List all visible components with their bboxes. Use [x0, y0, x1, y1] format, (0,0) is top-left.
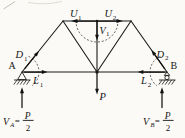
l1-arrowhead-icon: [42, 70, 48, 74]
l2-arrowhead-icon: [138, 70, 144, 74]
d2-subscript: 2: [165, 54, 169, 62]
ground-hatching: [14, 80, 30, 85]
vb-numerator: P: [164, 111, 171, 121]
inner-left-diagonal-member: [63, 21, 97, 72]
p-arrowhead-icon: [95, 89, 99, 95]
vb-arrowhead-icon: [160, 87, 164, 93]
truss-diagram-canvas: U 1 U 2 V 1 D 1 D 2 L 1 L 2 A B P V A = …: [0, 0, 185, 138]
joint-a-label: A: [9, 60, 17, 71]
va-subscript: A: [9, 121, 14, 128]
va-numerator: P: [24, 111, 31, 121]
truss-diagram-figure: U 1 U 2 V 1 D 1 D 2 L 1 L 2 A B P V A = …: [0, 0, 185, 138]
l2-subscript: 2: [148, 81, 152, 89]
u1-subscript: 1: [78, 14, 82, 22]
d2-label: D: [156, 49, 165, 60]
truss-members: [22, 21, 167, 72]
roller-support-right: [159, 72, 176, 85]
va-arrowhead-icon: [20, 87, 24, 93]
l1-label: L: [32, 75, 39, 86]
u2-subscript: 2: [113, 14, 117, 22]
l1-subscript: 1: [40, 81, 44, 89]
v1-arrowhead-icon: [95, 35, 99, 41]
u2-arrowhead-icon: [117, 19, 124, 23]
joint-b-label: B: [171, 60, 178, 71]
vb-equals: =: [155, 116, 160, 126]
ground-hatching: [159, 80, 175, 85]
roller-circle-icon: [165, 76, 169, 80]
right-reaction-equation: V B = P 2: [143, 111, 174, 133]
u1-arrowhead-icon: [71, 19, 78, 23]
vb-subscript: B: [150, 121, 154, 128]
left-reaction-equation: V A = P 2: [3, 111, 34, 133]
va-equals: =: [15, 116, 20, 126]
pin-support-left: [14, 72, 31, 85]
l2-label: L: [140, 75, 147, 86]
v1-subscript: 1: [106, 30, 110, 38]
p-load-label: P: [99, 91, 107, 102]
d1-subscript: 1: [24, 55, 28, 63]
scan-artifact: [28, 2, 62, 4]
d1-label: D: [15, 49, 24, 60]
force-arrows: [20, 19, 165, 107]
scan-artifact: [4, 2, 16, 10]
pin-triangle-icon: [18, 72, 27, 80]
vb-denominator: 2: [166, 123, 171, 133]
va-denominator: 2: [26, 123, 31, 133]
